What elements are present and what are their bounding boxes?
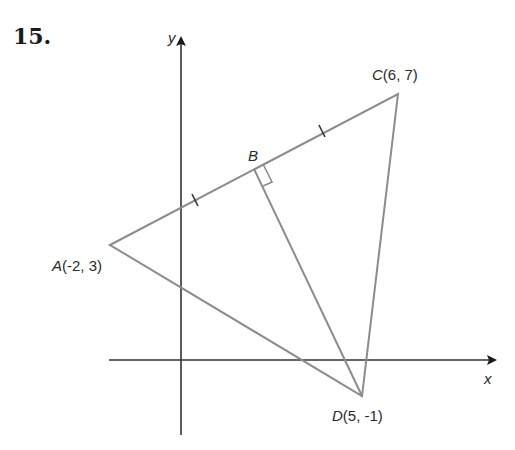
point-c-coords: (6, 7) (383, 66, 418, 83)
segment-bd (254, 169, 362, 396)
point-c-name: C (372, 66, 383, 83)
triangle-acd (110, 94, 398, 396)
y-axis-label: y (168, 29, 176, 46)
point-d-label: D(5, -1) (332, 407, 383, 424)
right-angle-marker (263, 164, 272, 186)
point-a-label: A(-2, 3) (52, 257, 102, 274)
point-d-coords: (5, -1) (343, 407, 383, 424)
point-d-name: D (332, 407, 343, 424)
point-c-label: C(6, 7) (372, 66, 418, 83)
point-b-name: B (248, 147, 258, 164)
x-axis-label: x (484, 370, 492, 387)
coordinate-plane (0, 0, 515, 450)
diagram-stage: 15. y x A(-2, 3) B C(6, 7) D(5, -1) (0, 0, 515, 450)
point-a-coords: (-2, 3) (62, 257, 102, 274)
point-a-name: A (52, 257, 62, 274)
point-b-label: B (248, 147, 258, 164)
